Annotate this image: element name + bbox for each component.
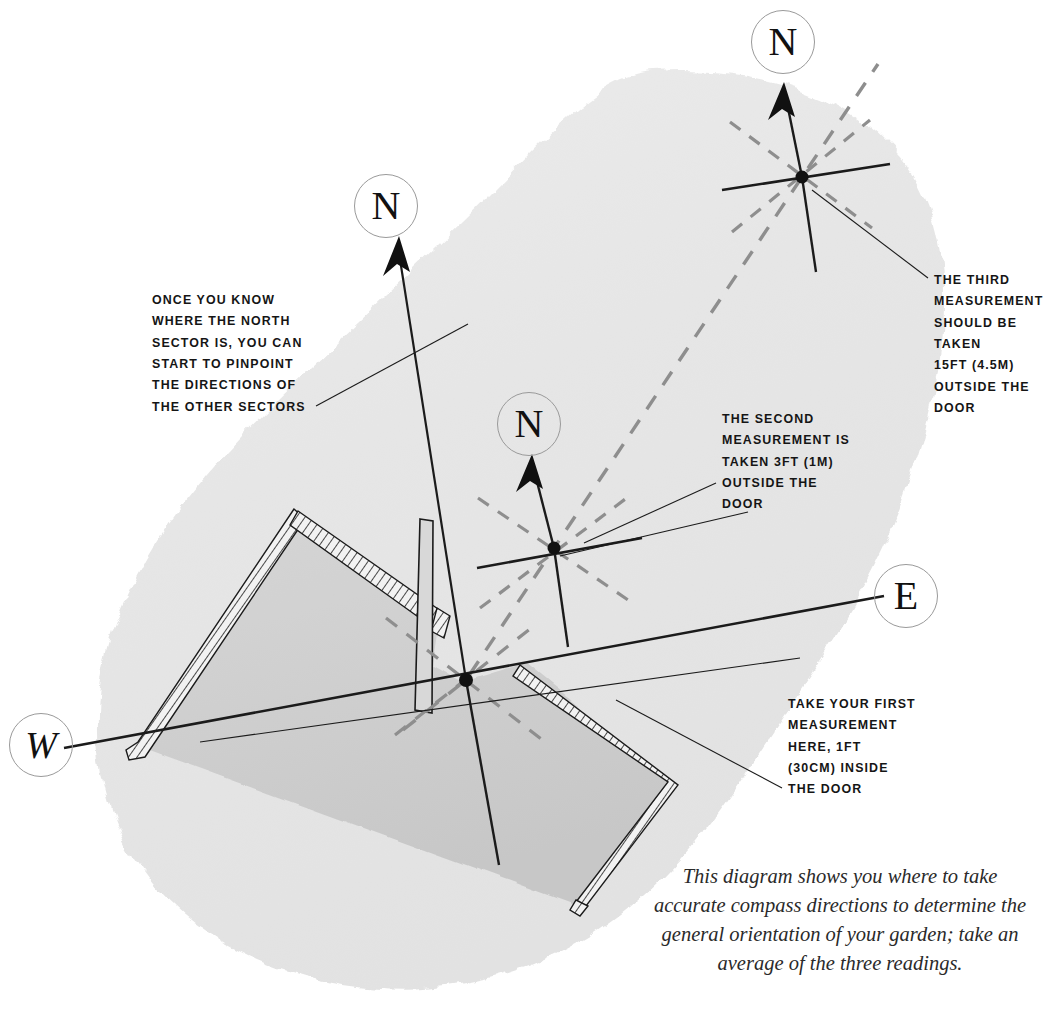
note-second-measurement: THE SECOND MEASUREMENT IS TAKEN 3FT (1M)…: [722, 409, 892, 516]
diagram-canvas: N N N E W ONCE YOU KNOW WHERE THE NORTH …: [0, 0, 1062, 1025]
compass-label-north-second: N: [497, 392, 561, 456]
diagram-caption: This diagram shows you where to take acc…: [645, 862, 1035, 978]
compass-label-north-third: N: [751, 10, 815, 74]
note-third-measurement: THE THIRD MEASUREMENT SHOULD BE TAKEN 15…: [934, 270, 1060, 419]
compass-label-west: W: [9, 713, 73, 777]
compass-label-north-main: N: [354, 174, 418, 238]
note-other-sectors: ONCE YOU KNOW WHERE THE NORTH SECTOR IS,…: [152, 290, 342, 418]
note-first-measurement: TAKE YOUR FIRST MEASUREMENT HERE, 1FT (3…: [788, 694, 956, 801]
compass-label-east: E: [874, 564, 938, 628]
